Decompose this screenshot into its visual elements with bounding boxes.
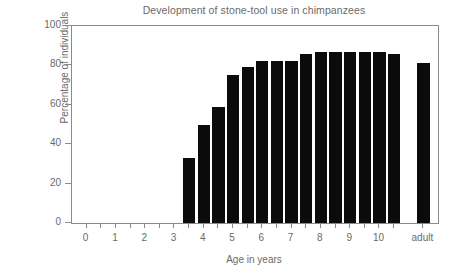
bar: [300, 54, 312, 223]
x-tick-mark: [203, 223, 204, 228]
x-tick-mark: [159, 223, 160, 228]
x-tick-label: 10: [373, 232, 384, 243]
x-tick-mark: [86, 223, 87, 228]
bar: [315, 52, 327, 223]
y-tick-label: 20: [50, 177, 61, 189]
x-tick-mark: [291, 223, 292, 228]
chart-title: Development of stone-tool use in chimpan…: [71, 4, 437, 16]
x-tick-mark: [349, 223, 350, 228]
bar: [198, 125, 210, 224]
x-tick-label: 6: [259, 232, 265, 243]
x-tick-mark: [422, 223, 423, 228]
x-tick-label: adult: [412, 232, 434, 243]
y-tick-label: 60: [50, 98, 61, 110]
x-axis-tick-labels: 012345678910adult: [71, 232, 439, 246]
y-tick-label: 100: [44, 19, 61, 31]
x-tick-mark: [261, 223, 262, 228]
x-tick-mark: [247, 223, 248, 228]
x-tick-mark: [276, 223, 277, 228]
y-tick-label: 0: [55, 216, 61, 228]
x-axis-ticks: [71, 223, 439, 231]
x-tick-label: 3: [171, 232, 177, 243]
x-tick-mark: [115, 223, 116, 228]
bar: [271, 61, 283, 223]
bar: [212, 107, 224, 223]
x-tick-mark: [217, 223, 218, 228]
bar: [242, 67, 254, 223]
chart-figure: Development of stone-tool use in chimpan…: [0, 0, 458, 276]
x-tick-mark: [100, 223, 101, 228]
x-tick-label: 9: [346, 232, 352, 243]
x-tick-mark: [393, 223, 394, 228]
plot-area: [71, 25, 439, 224]
x-tick-mark: [232, 223, 233, 228]
bar: [256, 61, 268, 223]
x-tick-mark: [320, 223, 321, 228]
bar: [183, 158, 195, 223]
x-tick-mark: [378, 223, 379, 228]
x-tick-mark: [173, 223, 174, 228]
x-tick-label: 1: [112, 232, 118, 243]
x-tick-mark: [364, 223, 365, 228]
x-tick-mark: [305, 223, 306, 228]
bar: [344, 52, 356, 223]
x-tick-mark: [144, 223, 145, 228]
x-tick-mark: [130, 223, 131, 228]
y-tick-label: 40: [50, 137, 61, 149]
x-tick-mark: [188, 223, 189, 228]
bar: [373, 52, 385, 223]
bar: [417, 63, 429, 223]
y-tick-label: 80: [50, 58, 61, 70]
x-tick-label: 7: [288, 232, 294, 243]
y-axis-ticks: 020406080100: [0, 0, 71, 276]
x-tick-label: 4: [200, 232, 206, 243]
bar: [285, 61, 297, 223]
x-tick-label: 0: [83, 232, 89, 243]
x-tick-mark: [335, 223, 336, 228]
x-tick-label: 8: [317, 232, 323, 243]
bar: [359, 52, 371, 223]
x-tick-label: 2: [141, 232, 147, 243]
bars-layer: [72, 26, 438, 223]
bar: [227, 75, 239, 223]
x-tick-label: 5: [229, 232, 235, 243]
x-axis-label: Age in years: [71, 254, 437, 265]
bar: [388, 54, 400, 223]
bar: [329, 52, 341, 223]
